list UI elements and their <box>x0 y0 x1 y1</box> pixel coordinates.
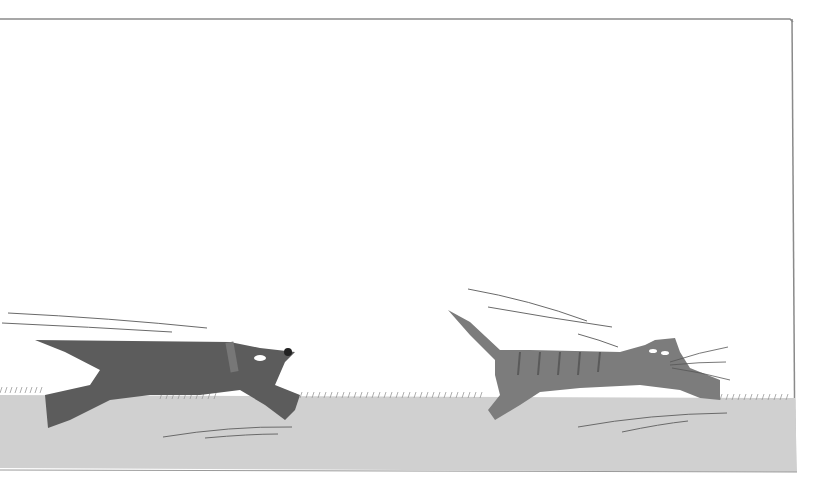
ground <box>0 395 797 472</box>
illustration-dog-chasing-cat <box>0 0 839 497</box>
